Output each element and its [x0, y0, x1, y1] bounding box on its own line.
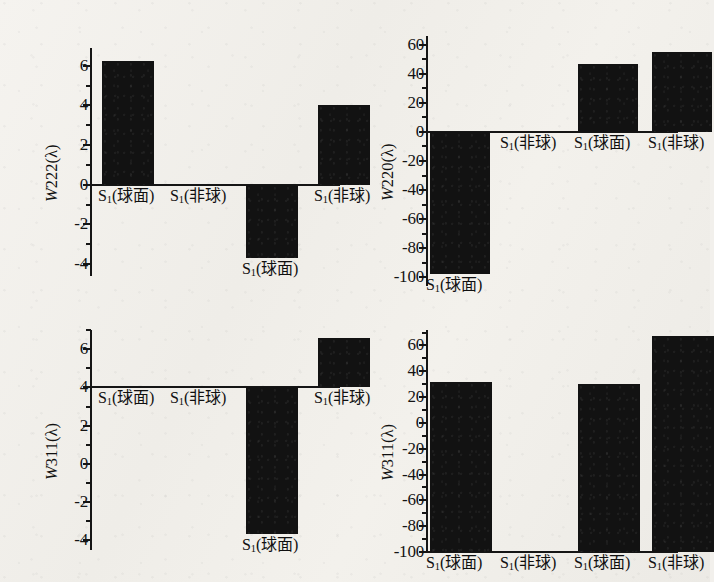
bar — [652, 336, 714, 552]
x-axis-baseline — [90, 386, 340, 388]
panel-bottom-right: -100-80-60-40-200204060W311(λ)S1(球面)S1(非… — [378, 330, 678, 552]
y-axis-tick-label: -60 — [372, 210, 424, 227]
x-axis-category-label: S1(非球) — [500, 135, 556, 153]
y-axis-tick-label: 6 — [56, 340, 88, 357]
y-axis-tick-minor — [86, 329, 91, 331]
y-axis-tick-minor — [422, 512, 427, 514]
y-axis-tick-minor — [86, 164, 91, 166]
y-axis-tick-label: 60 — [372, 336, 424, 353]
x-axis-category-label: S1(球面) — [574, 135, 630, 153]
x-axis-category-label: S1(非球) — [314, 390, 370, 408]
bar — [430, 132, 490, 274]
y-axis-tick-label: 60 — [372, 36, 424, 53]
y-axis-tick-minor — [422, 435, 427, 437]
y-axis-tick-label: -4 — [56, 531, 88, 548]
y-axis-line — [90, 48, 92, 276]
y-axis-tick-minor — [422, 383, 427, 385]
y-axis-tick-label: 20 — [372, 388, 424, 405]
y-axis-tick-minor — [86, 204, 91, 206]
y-axis-tick-minor — [86, 406, 91, 408]
y-axis-tick-minor — [86, 124, 91, 126]
bar — [430, 382, 492, 552]
x-axis-category-label: S1(球面) — [242, 537, 298, 555]
y-axis-tick-label: -60 — [372, 491, 424, 508]
y-axis-tick-minor — [86, 444, 91, 446]
y-axis-tick-label: -4 — [56, 255, 88, 272]
x-axis-category-label: S1(非球) — [314, 188, 370, 206]
bar — [652, 52, 712, 132]
y-axis-title: W311(λ) — [42, 423, 62, 480]
y-axis-tick-minor — [422, 332, 427, 334]
y-axis-tick-minor — [422, 145, 427, 147]
x-axis-category-label: S1(球面) — [426, 555, 482, 573]
y-axis-tick-minor — [86, 482, 91, 484]
y-axis-tick-label: -80 — [372, 517, 424, 534]
y-axis-tick-minor — [422, 357, 427, 359]
y-axis-title: W311(λ) — [378, 424, 398, 481]
x-axis-category-label: S1(球面) — [98, 390, 154, 408]
x-axis-category-label: S1(非球) — [648, 555, 704, 573]
x-axis-category-label: S1(球面) — [242, 261, 298, 279]
y-axis-line — [426, 330, 428, 552]
y-axis-title: W222(λ) — [42, 145, 62, 203]
y-axis-tick-label: -2 — [56, 493, 88, 510]
bar — [246, 387, 298, 533]
y-axis-tick-label: -100 — [372, 268, 424, 285]
y-axis-tick-minor — [422, 204, 427, 206]
y-axis-tick-minor — [422, 486, 427, 488]
y-axis-tick-label: 40 — [372, 65, 424, 82]
y-axis-tick-label: 40 — [372, 362, 424, 379]
y-axis-tick-minor — [422, 409, 427, 411]
y-axis-tick-minor — [422, 461, 427, 463]
y-axis-tick-minor — [86, 85, 91, 87]
x-axis-category-label: S1(非球) — [170, 188, 226, 206]
x-axis-category-label: S1(球面) — [574, 555, 630, 573]
x-axis-category-label: S1(非球) — [648, 135, 704, 153]
y-axis-tick-minor — [86, 520, 91, 522]
y-axis-tick-label: 4 — [56, 96, 88, 113]
bar — [578, 64, 638, 132]
bar — [578, 384, 640, 552]
x-axis-category-label: S1(球面) — [426, 277, 482, 295]
panel-bottom-left: -4-20246W311(λ)S1(球面)S1(非球)S1(球面)S1(非球) — [62, 330, 340, 550]
bar — [102, 61, 154, 185]
y-axis-title: W220(λ) — [378, 144, 398, 202]
y-axis-tick-minor — [422, 175, 427, 177]
y-axis-tick-minor — [422, 58, 427, 60]
panel-top-left: -4-20246W222(λ)S1(球面)S1(非球)S1(球面)S1(非球) — [62, 48, 340, 276]
y-axis-tick-label: 4 — [56, 378, 88, 395]
y-axis-tick-label: -100 — [372, 543, 424, 560]
x-axis-category-label: S1(非球) — [500, 555, 556, 573]
y-axis-line — [90, 330, 92, 550]
y-axis-tick-minor — [422, 538, 427, 540]
y-axis-tick-label: 6 — [56, 57, 88, 74]
y-axis-tick-label: 0 — [372, 123, 424, 140]
y-axis-tick-minor — [86, 243, 91, 245]
y-axis-tick-label: -2 — [56, 215, 88, 232]
y-axis-tick-minor — [422, 87, 427, 89]
x-axis-category-label: S1(球面) — [98, 188, 154, 206]
bar — [246, 185, 298, 258]
y-axis-tick-minor — [422, 116, 427, 118]
y-axis-tick-label: -80 — [372, 239, 424, 256]
y-axis-tick-minor — [422, 262, 427, 264]
y-axis-tick-minor — [422, 233, 427, 235]
y-axis-tick-label: 20 — [372, 94, 424, 111]
panel-top-right: -100-80-60-40-200204060W220(λ)S1(球面)S1(非… — [378, 36, 678, 286]
y-axis-tick-minor — [86, 367, 91, 369]
bar — [318, 105, 370, 184]
x-axis-category-label: S1(非球) — [170, 390, 226, 408]
bar — [318, 338, 370, 388]
